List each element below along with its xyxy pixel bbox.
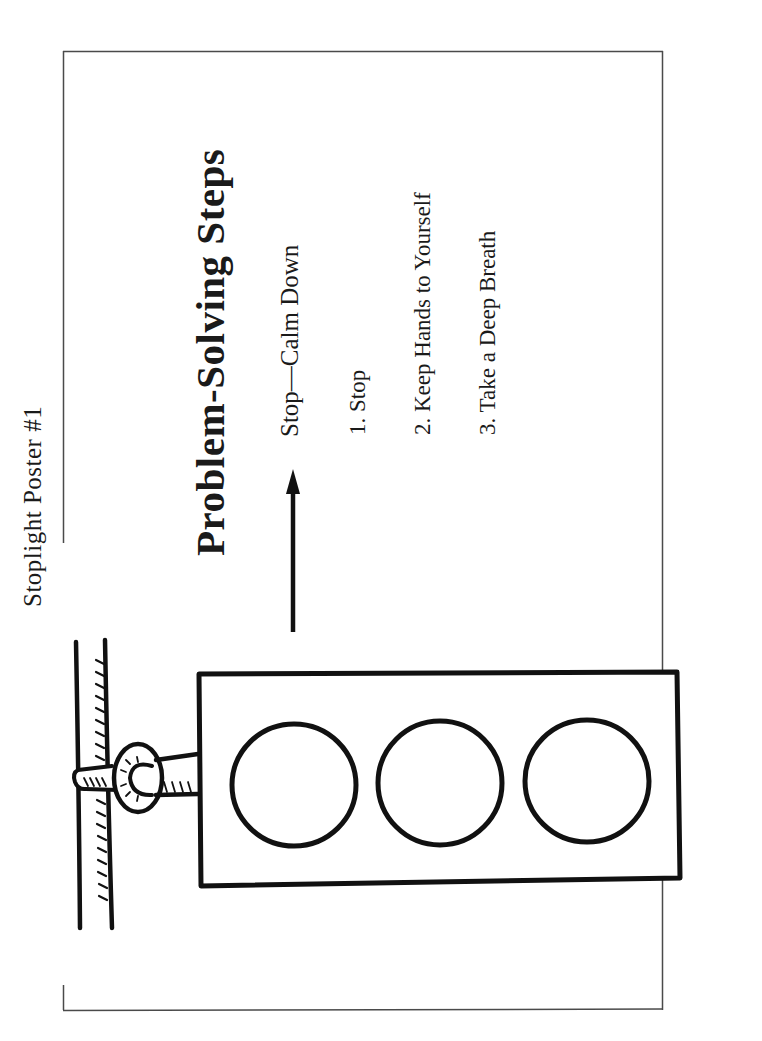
phase-label: Stop—Calm Down <box>276 245 304 437</box>
step-item: 3. Take a Deep Breath <box>475 231 501 435</box>
step-item: 2. Keep Hands to Yourself <box>410 192 436 435</box>
page-title: Problem-Solving Steps <box>186 149 234 556</box>
poster-label: Stoplight Poster #1 <box>19 406 47 607</box>
step-item: 1. Stop <box>345 370 371 435</box>
arrow-up-icon <box>0 0 762 1041</box>
